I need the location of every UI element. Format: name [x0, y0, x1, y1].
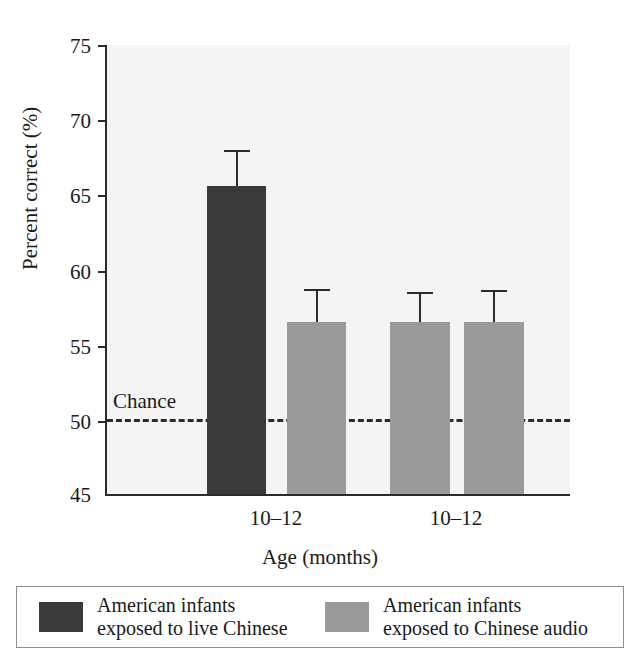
legend-label-chinese-audio-line1: American infants: [383, 594, 521, 616]
y-tick-65: 65: [98, 195, 107, 197]
legend-item-live-chinese: American infants exposed to live Chinese: [17, 594, 317, 640]
plot-area: 75 70 65 60 55 50 45 Chance: [105, 45, 570, 496]
x-tick-label-group-1: 10–12: [250, 506, 303, 531]
y-tick-label-60: 60: [70, 262, 91, 283]
bar-audio-10-12-a: [287, 322, 346, 494]
y-tick-70: 70: [98, 120, 107, 122]
bar-audio-10-12-c: [464, 322, 524, 494]
error-bar-cap: [407, 292, 433, 294]
y-tick-label-70: 70: [70, 111, 91, 132]
y-tick-label-45: 45: [70, 485, 91, 506]
error-bar-stem: [419, 292, 421, 322]
legend-swatch-live-chinese: [39, 602, 83, 632]
legend-label-chinese-audio: American infants exposed to Chinese audi…: [383, 594, 588, 640]
bar-chart-figure: Percent correct (%) 75 70 65 60 55 50 45…: [0, 0, 640, 660]
y-axis-label: Percent correct (%): [18, 107, 43, 270]
error-bar-cap: [304, 289, 330, 291]
chance-label: Chance: [113, 389, 176, 414]
error-bar-stem: [236, 150, 238, 186]
bar-audio-10-12-b: [390, 322, 450, 494]
y-tick-label-55: 55: [70, 337, 91, 358]
x-axis-label: Age (months): [0, 545, 640, 570]
legend-item-chinese-audio: American infants exposed to Chinese audi…: [317, 594, 617, 640]
y-tick-label-50: 50: [70, 412, 91, 433]
y-tick-50: 50: [98, 421, 107, 423]
error-bar-stem: [493, 290, 495, 321]
error-bar-stem: [316, 289, 318, 322]
legend-label-live-chinese-line2: exposed to live Chinese: [97, 617, 288, 639]
error-bar-cap: [481, 290, 507, 292]
legend-label-live-chinese: American infants exposed to live Chinese: [97, 594, 288, 640]
legend-swatch-chinese-audio: [325, 602, 369, 632]
y-tick-label-65: 65: [70, 186, 91, 207]
chart-legend: American infants exposed to live Chinese…: [16, 586, 624, 648]
error-bar-cap: [224, 150, 250, 152]
x-tick-label-group-2: 10–12: [430, 506, 483, 531]
legend-label-chinese-audio-line2: exposed to Chinese audio: [383, 617, 588, 639]
bar-live-chinese-10-12: [207, 186, 266, 494]
y-tick-label-75: 75: [70, 36, 91, 57]
y-tick-60: 60: [98, 271, 107, 273]
y-tick-75: 75: [98, 45, 107, 47]
y-tick-55: 55: [98, 346, 107, 348]
legend-label-live-chinese-line1: American infants: [97, 594, 235, 616]
